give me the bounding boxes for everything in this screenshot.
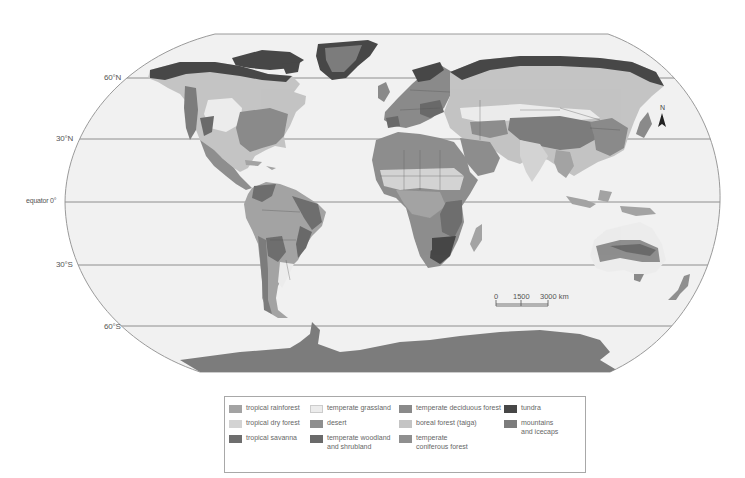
legend-item-temperate-deciduous-forest: temperate deciduous forest bbox=[399, 404, 501, 413]
legend-item-boreal-forest: boreal forest (taiga) bbox=[399, 419, 477, 428]
latitude-label-30s: 30°S bbox=[56, 260, 73, 269]
legend-item-tropical-savanna: tropical savanna bbox=[229, 434, 297, 443]
legend-item-temperate-grassland: temperate grassland bbox=[310, 404, 391, 413]
latitude-label-60n: 60°N bbox=[104, 73, 121, 82]
legend-item-tropical-rainforest: tropical rainforest bbox=[229, 404, 300, 413]
scale-label-0: 0 bbox=[494, 292, 498, 301]
legend-item-temperate-woodland: temperate woodland and shrubland bbox=[310, 434, 390, 451]
swatch-tropical-dry-forest bbox=[229, 420, 242, 428]
legend-item-tundra: tundra bbox=[504, 404, 541, 413]
swatch-boreal-forest bbox=[399, 420, 412, 428]
world-biome-map bbox=[0, 0, 745, 390]
latitude-label-equator: equator 0° bbox=[26, 197, 56, 204]
legend-item-temperate-coniferous-forest: temperate coniferous forest bbox=[399, 434, 468, 451]
latitude-label-60s: 60°S bbox=[104, 322, 121, 331]
scale-label-3000: 3000 km bbox=[540, 292, 569, 301]
swatch-temperate-deciduous-forest bbox=[399, 405, 412, 413]
map-legend: tropical rainforest tropical dry forest … bbox=[224, 396, 586, 473]
swatch-tundra bbox=[504, 405, 517, 413]
legend-item-mountains-icecaps: mountains and icecaps bbox=[504, 419, 558, 436]
swatch-temperate-coniferous-forest bbox=[399, 435, 412, 443]
swatch-tropical-rainforest bbox=[229, 405, 242, 413]
swatch-desert bbox=[310, 420, 323, 428]
north-label: N bbox=[660, 104, 665, 111]
legend-item-tropical-dry-forest: tropical dry forest bbox=[229, 419, 300, 428]
scale-label-1500: 1500 bbox=[513, 292, 530, 301]
swatch-temperate-woodland bbox=[310, 435, 323, 443]
swatch-mountains-icecaps bbox=[504, 420, 517, 428]
legend-item-desert: desert bbox=[310, 419, 346, 428]
latitude-label-30n: 30°N bbox=[56, 134, 73, 143]
swatch-tropical-savanna bbox=[229, 435, 242, 443]
swatch-temperate-grassland bbox=[310, 405, 323, 413]
